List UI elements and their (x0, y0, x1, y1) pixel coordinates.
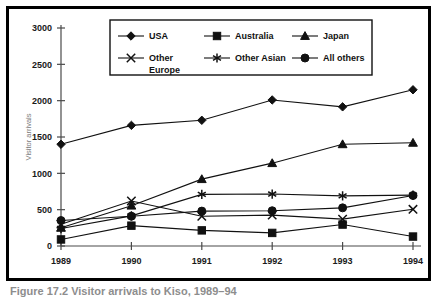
series-australia (61, 225, 413, 240)
marker-all-others (409, 191, 417, 199)
legend-label: USA (149, 31, 169, 41)
x-tick-label: 1992 (262, 256, 282, 266)
marker-legend-australia (213, 32, 220, 39)
marker-usa (268, 96, 276, 104)
marker-usa (338, 103, 346, 111)
marker-australia (198, 227, 205, 234)
marker-all-others (127, 212, 135, 220)
y-tick-label: 3000 (32, 23, 52, 33)
x-tick-label: 1994 (403, 256, 423, 266)
x-tick-label: 1993 (333, 256, 353, 266)
series-line (61, 90, 413, 144)
marker-all-others (339, 204, 347, 212)
series-line (61, 143, 413, 228)
marker-australia (269, 229, 276, 236)
legend-label: Australia (235, 31, 275, 41)
x-tick-label: 1989 (51, 256, 71, 266)
y-tick-label: 2000 (32, 96, 52, 106)
marker-usa (409, 86, 417, 94)
legend-label: All others (323, 53, 365, 63)
x-tick-label: 1991 (192, 256, 212, 266)
y-axis-title: Visitor arrivals (24, 113, 33, 160)
markers-usa (57, 86, 417, 149)
y-tick-label: 0 (47, 241, 52, 251)
line-chart: 0500100015002000250030001989199019911992… (9, 9, 428, 278)
legend-label: Other (149, 53, 174, 63)
marker-usa (198, 116, 206, 124)
y-tick-label: 1000 (32, 169, 52, 179)
marker-all-others (268, 207, 276, 215)
legend-item-australia[interactable]: Australia (204, 31, 275, 41)
marker-legend-all-others (301, 54, 309, 62)
figure-container: 0500100015002000250030001989199019911992… (0, 0, 441, 298)
figure-caption: Figure 17.2 Visitor arrivals to Kiso, 19… (10, 285, 430, 297)
chart-legend: USAAustraliaJapanOtherEuropeOther AsianA… (110, 20, 372, 75)
marker-usa (57, 140, 65, 148)
x-tick-label: 1990 (121, 256, 141, 266)
legend-item-all-others[interactable]: All others (292, 53, 365, 63)
y-tick-label: 1500 (32, 132, 52, 142)
legend-label: Europe (149, 65, 180, 75)
series-usa (61, 90, 413, 144)
series-japan (61, 143, 413, 228)
marker-australia (409, 233, 416, 240)
series-group (57, 86, 418, 244)
y-tick-label: 500 (37, 205, 52, 215)
marker-australia (57, 236, 64, 243)
marker-australia (128, 222, 135, 229)
series-line (61, 225, 413, 240)
marker-usa (127, 121, 135, 129)
legend-item-other-asian[interactable]: Other Asian (204, 53, 286, 63)
chart-frame: 0500100015002000250030001989199019911992… (6, 6, 431, 281)
marker-all-others (57, 217, 65, 225)
y-tick-label: 2500 (32, 60, 52, 70)
marker-all-others (198, 207, 206, 215)
legend-label: Other Asian (235, 53, 286, 63)
legend-label: Japan (323, 31, 349, 41)
